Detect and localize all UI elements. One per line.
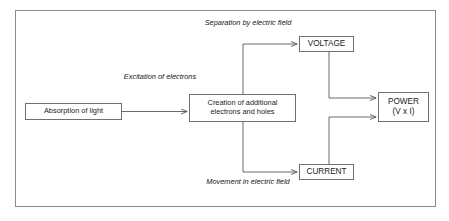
node-power-label-line1: POWER [388,97,419,107]
edge-label-movement: Movement in electric field [200,177,296,187]
edge-label-excitation: Excitation of electrons [123,72,197,82]
edge-creation-to-current [243,122,297,172]
edge-label-separation-line2: electric field [252,18,291,27]
node-absorption-label: Absorption of light [44,107,103,116]
node-current-label: CURRENT [306,167,346,177]
node-power-label-line2: (V x I) [393,107,415,117]
edge-label-movement-line2: electric field [251,177,290,186]
edge-label-excitation-line1: Excitation of [124,72,164,81]
node-creation-of-carriers: Creation of additional electrons and hol… [189,94,296,122]
node-power: POWER (V x I) [378,92,429,122]
node-voltage-label: VOLTAGE [308,39,345,49]
node-absorption-of-light: Absorption of light [25,103,122,120]
edge-label-movement-line1: Movement in [206,177,248,186]
edge-current-to-power [329,117,376,164]
edge-label-separation: Separation by electric field [200,18,296,28]
edge-label-separation-line1: Separation by [205,18,251,27]
edge-voltage-to-power [329,52,376,98]
edge-label-excitation-line2: electrons [166,72,196,81]
edge-creation-to-voltage [243,44,297,94]
node-current: CURRENT [299,164,354,180]
node-voltage: VOLTAGE [299,36,354,52]
node-creation-label-line2: electrons and holes [210,108,274,117]
diagram-canvas: Absorption of light Creation of addition… [0,0,449,221]
